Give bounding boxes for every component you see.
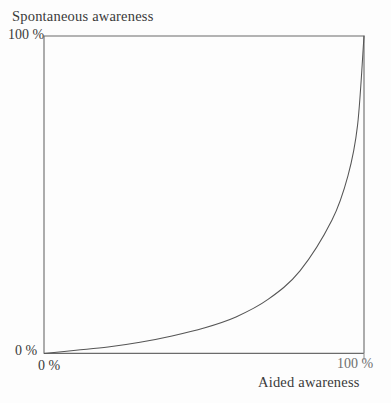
plot-frame (44, 36, 364, 353)
data-series-line (44, 36, 364, 353)
plot-area (0, 0, 391, 403)
chart-container: Spontaneous awareness 100 % 0 % 0 % 100 … (0, 0, 391, 403)
